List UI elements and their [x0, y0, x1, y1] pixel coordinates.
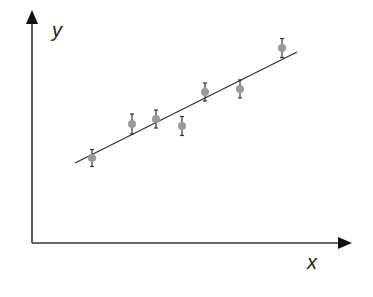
data-point	[278, 39, 286, 58]
data-point	[152, 110, 160, 128]
point-marker	[88, 154, 96, 162]
regression-line	[75, 52, 297, 163]
x-axis-arrow-icon	[338, 237, 352, 249]
point-marker	[278, 44, 286, 52]
data-points-layer	[88, 39, 286, 167]
data-point	[88, 150, 96, 167]
y-axis-label: y	[52, 20, 62, 40]
data-point	[178, 117, 186, 136]
point-marker	[201, 88, 209, 96]
scatter-chart: y x	[0, 0, 373, 297]
data-point	[128, 114, 136, 134]
point-marker	[152, 115, 160, 123]
plot-area	[0, 0, 373, 297]
y-axis-arrow-icon	[26, 10, 38, 24]
data-point	[201, 83, 209, 101]
point-marker	[236, 85, 244, 93]
x-axis-label: x	[307, 252, 317, 272]
data-point	[236, 80, 244, 98]
fit-line-layer	[75, 52, 297, 163]
point-marker	[178, 122, 186, 130]
point-marker	[128, 120, 136, 128]
